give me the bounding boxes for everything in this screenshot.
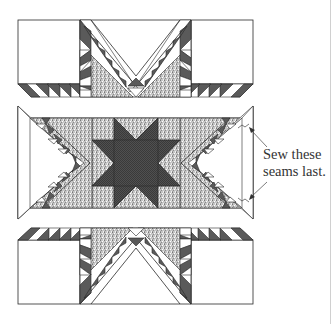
bottom-unit bbox=[18, 228, 253, 304]
page-edge-rule bbox=[330, 0, 331, 324]
top-left-plain-square bbox=[18, 20, 80, 84]
annotation-line-2: seams last. bbox=[263, 163, 333, 180]
top-unit bbox=[18, 20, 253, 97]
seam-annotation: Sew these seams last. bbox=[263, 146, 333, 180]
top-right-plain-square bbox=[191, 20, 253, 84]
bottom-left-plain-square bbox=[18, 240, 80, 304]
middle-unit bbox=[18, 106, 253, 219]
bottom-right-plain-square bbox=[191, 240, 253, 304]
annotation-line-1: Sew these bbox=[263, 146, 333, 163]
